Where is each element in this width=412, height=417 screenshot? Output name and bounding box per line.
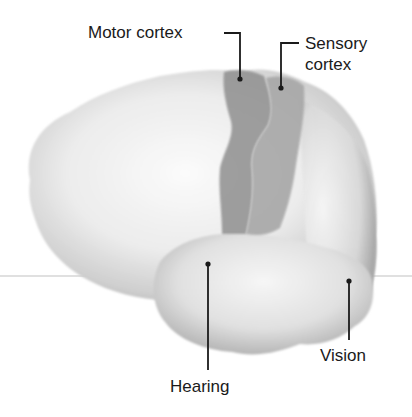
sensory-dot	[278, 85, 283, 90]
motor-cortex-label: Motor cortex	[88, 23, 182, 42]
motor-dot	[237, 76, 242, 81]
hearing-label: Hearing	[170, 377, 230, 396]
hearing-dot	[205, 261, 210, 266]
sensory-cortex-label-line1: Sensory	[305, 34, 367, 53]
vision-dot	[346, 278, 351, 283]
vision-label: Vision	[320, 346, 366, 365]
sensory-cortex-label-line2: cortex	[305, 55, 351, 74]
